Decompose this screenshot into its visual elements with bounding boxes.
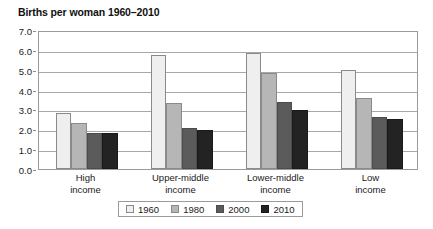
y-tick-mark-3.0: [33, 110, 36, 111]
legend-swatch-2000: [216, 205, 224, 213]
bar-1960-high-income: [56, 113, 72, 169]
y-tick-mark-1.0: [33, 150, 36, 151]
bar-2010-lower-middle-income: [292, 110, 308, 169]
bar-group-high-income: [56, 32, 118, 169]
bar-1980-lower-middle-income: [261, 73, 277, 169]
legend-label-1980: 1980: [183, 204, 204, 215]
bar-2010-low-income: [387, 119, 403, 169]
births-per-woman-bar-chart: Births per woman 1960–2010 7.06.05.04.03…: [0, 0, 433, 229]
x-label-line: Upper-middle: [133, 172, 228, 184]
x-label-line: Lower-middle: [228, 172, 323, 184]
x-label-line: income: [323, 184, 418, 196]
y-tick-label-6.0: 6.0: [19, 45, 32, 56]
y-tick-mark-0.0: [33, 170, 36, 171]
x-label-line: Low: [323, 172, 418, 184]
legend-item-2000[interactable]: 2000: [216, 204, 249, 215]
x-label-line: income: [228, 184, 323, 196]
x-label-lower-middle-income: Lower-middleincome: [228, 172, 323, 196]
bar-1960-upper-middle-income: [151, 55, 167, 169]
bar-2010-high-income: [102, 133, 118, 169]
legend-swatch-1980: [171, 205, 179, 213]
bar-group-low-income: [341, 32, 403, 169]
legend-label-2010: 2010: [273, 204, 294, 215]
legend-swatch-1960: [126, 205, 134, 213]
y-tick-label-5.0: 5.0: [19, 65, 32, 76]
bar-group-lower-middle-income: [246, 32, 308, 169]
x-label-high-income: Highincome: [38, 172, 133, 196]
x-label-line: High: [38, 172, 133, 184]
bar-2000-low-income: [372, 117, 388, 169]
legend-label-1960: 1960: [138, 204, 159, 215]
y-tick-label-4.0: 4.0: [19, 85, 32, 96]
bar-2000-high-income: [87, 133, 103, 169]
legend-item-1960[interactable]: 1960: [126, 204, 159, 215]
bar-2000-upper-middle-income: [182, 128, 198, 169]
bar-1960-low-income: [341, 70, 357, 169]
legend-label-2000: 2000: [228, 204, 249, 215]
bar-group-upper-middle-income: [151, 32, 213, 169]
bar-1960-lower-middle-income: [246, 53, 262, 169]
legend-item-1980[interactable]: 1980: [171, 204, 204, 215]
y-tick-mark-6.0: [33, 51, 36, 52]
x-label-upper-middle-income: Upper-middleincome: [133, 172, 228, 196]
y-tick-mark-5.0: [33, 71, 36, 72]
y-axis: 7.06.05.04.03.02.01.00.0: [0, 31, 36, 170]
y-tick-label-7.0: 7.0: [19, 26, 32, 37]
chart-title: Births per woman 1960–2010: [18, 6, 160, 18]
y-tick-label-3.0: 3.0: [19, 105, 32, 116]
bars-layer: [39, 32, 417, 169]
x-label-line: income: [38, 184, 133, 196]
x-label-line: income: [133, 184, 228, 196]
y-tick-label-1.0: 1.0: [19, 145, 32, 156]
y-tick-mark-7.0: [33, 31, 36, 32]
x-label-low-income: Lowincome: [323, 172, 418, 196]
y-tick-mark-2.0: [33, 130, 36, 131]
bar-2010-upper-middle-income: [197, 130, 213, 169]
bar-1980-high-income: [71, 123, 87, 169]
bar-1980-upper-middle-income: [166, 103, 182, 169]
y-tick-label-0.0: 0.0: [19, 165, 32, 176]
y-tick-label-2.0: 2.0: [19, 125, 32, 136]
bar-1980-low-income: [356, 98, 372, 169]
y-tick-mark-4.0: [33, 91, 36, 92]
plot-area: [38, 31, 418, 170]
x-axis-category-labels: HighincomeUpper-middleincomeLower-middle…: [38, 172, 418, 202]
bar-2000-lower-middle-income: [277, 102, 293, 170]
legend-swatch-2010: [261, 205, 269, 213]
legend-item-2010[interactable]: 2010: [261, 204, 294, 215]
chart-legend: 1960198020002010: [118, 201, 303, 217]
